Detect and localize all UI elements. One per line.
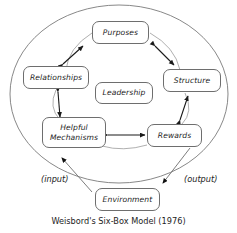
arc-relationships-purposes: [66, 33, 92, 70]
weisbord-six-box-diagram: Purposes Relationships Structure Leaders…: [0, 0, 237, 233]
box-rewards[interactable]: Rewards: [147, 124, 202, 147]
box-relationships[interactable]: Relationships: [23, 66, 89, 89]
box-purposes[interactable]: Purposes: [92, 21, 149, 44]
box-environment-label: Environment: [96, 195, 159, 205]
box-helpful-mechanisms-label-line2: Mechanisms: [43, 133, 105, 143]
box-relationships-label: Relationships: [24, 73, 88, 83]
box-structure-label: Structure: [164, 76, 220, 86]
box-rewards-label: Rewards: [148, 131, 201, 141]
box-purposes-label: Purposes: [93, 28, 148, 38]
box-leadership[interactable]: Leadership: [95, 82, 153, 104]
arc-helpful-rewards: [102, 145, 147, 149]
box-leadership-label: Leadership: [96, 88, 152, 98]
box-structure[interactable]: Structure: [163, 69, 221, 92]
label-input: (input): [41, 174, 68, 184]
box-environment[interactable]: Environment: [95, 188, 160, 211]
arc-purposes-structure: [150, 33, 180, 70]
box-helpful-mechanisms[interactable]: Helpful Mechanisms: [42, 117, 106, 148]
arrow-purposes-structure: [155, 46, 174, 65]
label-output: (output): [184, 174, 217, 184]
box-helpful-mechanisms-label-line1: Helpful: [43, 123, 105, 133]
diagram-caption: Weisbord's Six-Box Model (1976): [0, 216, 237, 226]
arrow-relationships-purposes: [63, 46, 83, 64]
arrow-relationships-helpful: [58, 92, 60, 117]
